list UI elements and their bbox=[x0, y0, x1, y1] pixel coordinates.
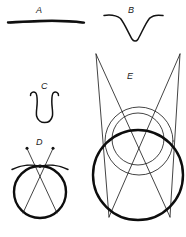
figure-d-circle bbox=[14, 166, 66, 218]
figure-d: D bbox=[12, 137, 68, 218]
figure-a-label: A bbox=[35, 5, 42, 15]
figure-e-label: E bbox=[127, 71, 134, 81]
figure-c-curve bbox=[30, 92, 58, 123]
figure-d-endpoint-dot-left bbox=[26, 147, 29, 150]
figure-d-label: D bbox=[36, 137, 43, 147]
figure-e: E bbox=[93, 54, 183, 220]
figure-d-node-point bbox=[38, 165, 41, 168]
plate-canvas: A B C D bbox=[0, 0, 186, 237]
figure-d-endpoint-dot-right bbox=[52, 147, 55, 150]
figure-b-curve bbox=[104, 15, 163, 41]
figure-e-inner-circle bbox=[112, 113, 164, 165]
figure-d-line-right bbox=[23, 149, 53, 214]
figure-a: A bbox=[8, 5, 84, 23]
figure-plate: A B C D bbox=[0, 0, 186, 237]
figure-b: B bbox=[104, 5, 163, 41]
figure-c-label: C bbox=[41, 81, 48, 91]
figure-c: C bbox=[30, 81, 58, 123]
figure-d-line-left bbox=[27, 149, 57, 214]
figure-b-label: B bbox=[128, 5, 134, 15]
figure-e-line-2 bbox=[109, 54, 180, 217]
